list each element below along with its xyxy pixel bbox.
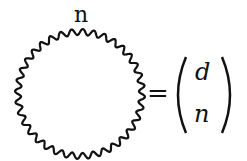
binomial-bottom: n — [194, 100, 209, 128]
feynman-diagram: n = d n — [0, 0, 247, 161]
binomial-top: d — [195, 58, 210, 86]
equals-sign: = — [147, 78, 169, 108]
loop-label: n — [74, 2, 88, 27]
